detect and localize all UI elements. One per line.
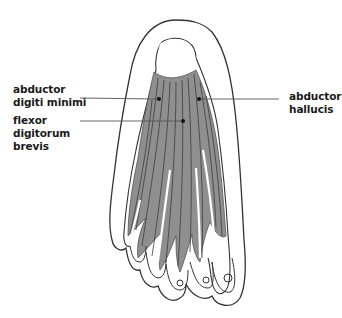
label-abductor-digiti-minimi: abductor digiti minimi [13, 83, 86, 109]
label-line: brevis [13, 140, 70, 153]
label-line: abductor [13, 83, 86, 96]
heel-pad [158, 39, 196, 76]
label-line: hallucis [289, 103, 341, 116]
label-flexor-digitorum-brevis: flexor digitorum brevis [13, 114, 70, 153]
dot-abductor-digiti-minimi [157, 97, 161, 101]
label-line: abductor [289, 90, 341, 103]
label-line: digiti minimi [13, 96, 86, 109]
label-line: digitorum [13, 127, 70, 140]
foot-illustration [0, 0, 342, 318]
label-abductor-hallucis: abductor hallucis [289, 90, 341, 116]
dot-abductor-hallucis [197, 97, 201, 101]
label-line: flexor [13, 114, 70, 127]
dot-flexor-digitorum-brevis [181, 119, 185, 123]
foot-muscle-diagram: abductor digiti minimi flexor digitorum … [0, 0, 342, 318]
leader-abductor-digiti-minimi [80, 98, 159, 99]
